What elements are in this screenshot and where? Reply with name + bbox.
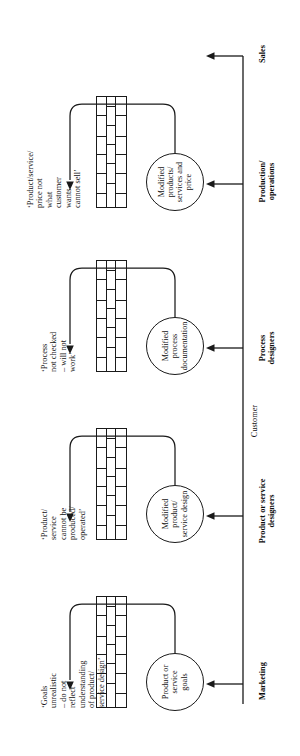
stage-label-sales: Sales bbox=[258, 24, 267, 84]
diagram-artwork: Product or service goals ‘Goals unrealis… bbox=[0, 0, 300, 756]
stage-label-production-operations: Production/ operations bbox=[258, 134, 277, 229]
quote-production-operations: ‘Product/service/ price not what custome… bbox=[26, 84, 83, 208]
diagram-canvas: Product or service goals ‘Goals unrealis… bbox=[0, 0, 300, 756]
customer-spine-label: Customer bbox=[250, 386, 259, 456]
